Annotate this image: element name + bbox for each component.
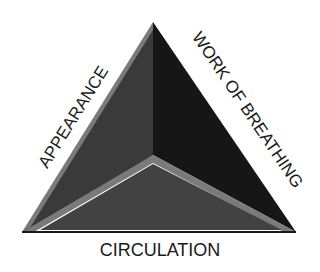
- label-circulation: CIRCULATION: [100, 240, 221, 260]
- triangle-diagram: APPEARANCE WORK OF BREATHING CIRCULATION: [0, 0, 320, 272]
